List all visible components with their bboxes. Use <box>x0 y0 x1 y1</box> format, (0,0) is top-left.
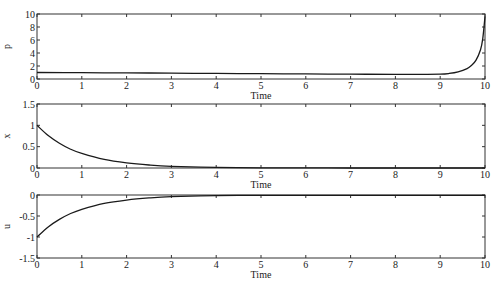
x-tick-label: 7 <box>348 80 353 91</box>
y-tick-label: -0.5 <box>19 211 35 222</box>
x-axis-label: Time <box>251 269 272 280</box>
x-axis-label: Time <box>251 90 272 101</box>
x-tick-label: 7 <box>348 259 353 270</box>
x-tick-label: 8 <box>393 80 398 91</box>
y-axis-label: p <box>1 44 12 49</box>
axes-frame <box>37 104 485 168</box>
axes-frame <box>37 14 485 79</box>
x-tick-label: 3 <box>169 169 174 180</box>
series-line-x <box>37 125 485 168</box>
y-tick-label: -1.5 <box>19 253 35 264</box>
x-axis-label: Time <box>251 179 272 190</box>
y-tick-label: 1 <box>30 120 35 131</box>
axes-frame <box>37 195 485 258</box>
x-tick-label: 9 <box>438 80 443 91</box>
x-tick-label: 4 <box>214 80 219 91</box>
x-tick-label: 6 <box>303 169 308 180</box>
x-tick-label: 10 <box>480 80 490 91</box>
y-tick-label: 6 <box>30 35 35 46</box>
x-tick-label: 0 <box>35 169 40 180</box>
x-tick-label: 10 <box>480 259 490 270</box>
x-tick-label: 6 <box>303 259 308 270</box>
series-line-u <box>37 195 485 237</box>
x-tick-label: 6 <box>303 80 308 91</box>
y-tick-label: 0.5 <box>23 141 36 152</box>
y-tick-label: 0 <box>30 74 35 85</box>
x-tick-label: 8 <box>393 169 398 180</box>
x-tick-label: 1 <box>79 80 84 91</box>
y-tick-label: 2 <box>30 61 35 72</box>
x-tick-label: 3 <box>169 259 174 270</box>
x-tick-label: 2 <box>124 259 129 270</box>
x-tick-label: 10 <box>480 169 490 180</box>
x-tick-label: 1 <box>79 169 84 180</box>
three-panel-chart: 0123456789100246810Timep01234567891000.5… <box>0 0 494 284</box>
y-tick-label: 0 <box>30 163 35 174</box>
x-tick-label: 0 <box>35 80 40 91</box>
y-axis-label: u <box>1 224 12 229</box>
x-tick-label: 9 <box>438 259 443 270</box>
y-axis-label: x <box>1 134 12 139</box>
y-tick-label: 0 <box>30 190 35 201</box>
x-tick-label: 4 <box>214 259 219 270</box>
y-tick-label: 1.5 <box>23 99 36 110</box>
x-tick-label: 4 <box>214 169 219 180</box>
panel-u: 012345678910-1.5-1-0.50Timeu <box>1 190 490 281</box>
x-tick-label: 3 <box>169 80 174 91</box>
y-tick-label: 10 <box>25 9 35 20</box>
x-tick-label: 1 <box>79 259 84 270</box>
x-tick-label: 2 <box>124 80 129 91</box>
y-tick-label: 4 <box>30 48 35 59</box>
x-tick-label: 7 <box>348 169 353 180</box>
series-line-p <box>37 17 485 75</box>
x-tick-label: 0 <box>35 259 40 270</box>
x-tick-label: 8 <box>393 259 398 270</box>
x-tick-label: 9 <box>438 169 443 180</box>
y-tick-label: -1 <box>27 232 35 243</box>
panel-x: 01234567891000.511.5Timex <box>1 99 490 191</box>
panel-p: 0123456789100246810Timep <box>1 9 490 102</box>
x-tick-label: 2 <box>124 169 129 180</box>
y-tick-label: 8 <box>30 22 35 33</box>
